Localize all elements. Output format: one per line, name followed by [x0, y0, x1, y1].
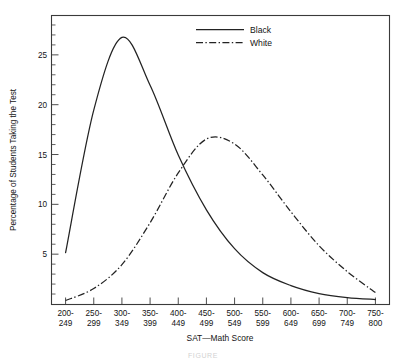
- x-tick-label-top: 250-: [86, 309, 103, 318]
- x-tick-label-bottom: 649: [284, 319, 298, 328]
- x-tick-label-bottom: 349: [115, 319, 129, 328]
- x-tick-label-bottom: 749: [340, 319, 354, 328]
- y-tick-label: 15: [38, 151, 48, 160]
- y-tick-label: 25: [38, 51, 48, 60]
- x-tick-label-bottom: 599: [256, 319, 270, 328]
- x-tick-label-bottom: 299: [87, 319, 101, 328]
- legend-label-white: White: [250, 38, 272, 48]
- x-tick-label-top: 550-: [255, 309, 272, 318]
- y-tick-label: 5: [42, 250, 47, 259]
- figure-root: 5 10 15 20 25 Percentage of Students Tak…: [0, 0, 407, 363]
- x-tick-label-bottom: 449: [171, 319, 185, 328]
- x-tick-label-top: 750-: [367, 309, 384, 318]
- x-tick-label-bottom: 549: [228, 319, 242, 328]
- x-tick-label-bottom: 399: [143, 319, 157, 328]
- x-tick-label-bottom: 249: [59, 319, 73, 328]
- y-axis-title: Percentage of Students Taking the Test: [9, 88, 18, 231]
- sat-math-score-distribution-chart: 5 10 15 20 25 Percentage of Students Tak…: [0, 0, 407, 363]
- x-axis-title: SAT—Math Score: [187, 333, 254, 343]
- x-tick-label-top: 700-: [339, 309, 356, 318]
- x-tick-label-bottom: 499: [200, 319, 214, 328]
- figure-caption: FIGURE: [188, 352, 218, 359]
- x-tick-label-top: 400-: [170, 309, 187, 318]
- y-tick-label: 10: [38, 200, 48, 209]
- x-tick-label-top: 350-: [142, 309, 159, 318]
- x-tick-label-top: 450-: [198, 309, 215, 318]
- x-tick-label-top: 650-: [311, 309, 328, 318]
- x-tick-label-top: 500-: [226, 309, 243, 318]
- x-tick-label-top: 600-: [283, 309, 300, 318]
- x-tick-label-top: 200-: [57, 309, 74, 318]
- x-tick-label-top: 300-: [114, 309, 131, 318]
- legend-label-black: Black: [250, 25, 272, 35]
- x-tick-label-bottom: 699: [312, 319, 326, 328]
- x-tick-label-bottom: 800: [369, 319, 383, 328]
- y-tick-label: 20: [38, 101, 48, 110]
